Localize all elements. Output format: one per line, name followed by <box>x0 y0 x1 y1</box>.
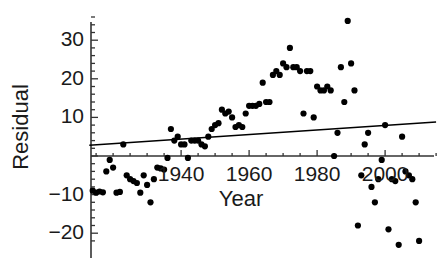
data-point <box>147 199 153 205</box>
residual-vs-year-scatter-chart: Residual Year −20−10102030 1940196019802… <box>0 0 448 270</box>
data-point <box>215 120 221 126</box>
data-point <box>175 134 181 140</box>
data-point <box>260 80 266 86</box>
data-point <box>229 114 235 120</box>
data-point <box>226 109 232 115</box>
data-point <box>239 124 245 130</box>
data-point <box>110 165 116 171</box>
y-tick-label: −10 <box>48 182 84 206</box>
data-point <box>107 157 113 163</box>
data-point <box>341 99 347 105</box>
y-axis-ticks <box>91 17 98 241</box>
data-point <box>120 141 126 147</box>
x-tick-label: 1980 <box>282 162 352 186</box>
data-point <box>164 155 170 161</box>
data-point <box>348 60 354 66</box>
data-point <box>266 99 272 105</box>
data-point <box>205 134 211 140</box>
data-point <box>100 189 106 195</box>
data-point <box>382 122 388 128</box>
data-point <box>283 64 289 70</box>
data-point <box>181 141 187 147</box>
data-point <box>311 114 317 120</box>
x-axis-ticks <box>96 150 436 156</box>
data-point <box>385 226 391 232</box>
data-point <box>307 68 313 74</box>
x-tick-label: 2000 <box>350 162 420 186</box>
data-point <box>256 101 262 107</box>
y-tick-label: −20 <box>48 220 84 244</box>
data-point <box>334 130 340 136</box>
data-point <box>202 143 208 149</box>
x-axis-label: Year <box>186 186 296 212</box>
data-point <box>300 110 306 116</box>
y-tick-label: 10 <box>61 104 84 128</box>
data-point <box>345 18 351 24</box>
data-point <box>134 180 140 186</box>
data-point <box>365 130 371 136</box>
data-point <box>328 87 334 93</box>
data-point <box>243 110 249 116</box>
data-point <box>117 189 123 195</box>
x-tick-label: 1960 <box>214 162 284 186</box>
data-point <box>351 87 357 93</box>
data-point <box>416 238 422 244</box>
axes-group <box>91 17 436 258</box>
data-points-group <box>90 18 423 248</box>
y-axis-label: Residual <box>8 75 34 179</box>
data-point <box>331 153 337 159</box>
data-point <box>362 141 368 147</box>
data-point <box>399 134 405 140</box>
data-point <box>168 126 174 132</box>
data-point <box>185 155 191 161</box>
data-point <box>103 168 109 174</box>
data-point <box>137 190 143 196</box>
data-point <box>355 222 361 228</box>
data-point <box>372 199 378 205</box>
data-point <box>338 64 344 70</box>
data-point <box>396 242 402 248</box>
data-point <box>287 45 293 51</box>
y-tick-label: 20 <box>61 66 84 90</box>
y-tick-label: 30 <box>61 27 84 51</box>
data-point <box>297 68 303 74</box>
data-point <box>413 199 419 205</box>
data-point <box>277 72 283 78</box>
x-tick-label: 1940 <box>146 162 216 186</box>
